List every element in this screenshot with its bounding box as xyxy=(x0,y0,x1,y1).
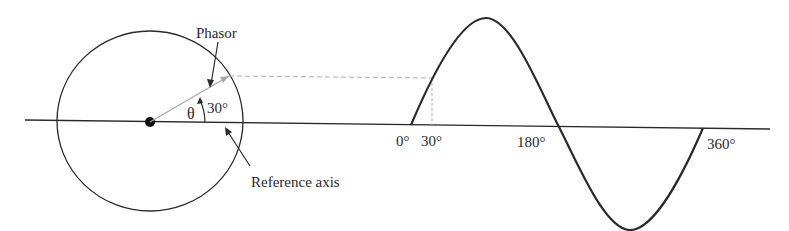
angle-arc-arrowhead xyxy=(197,97,203,104)
theta-label: θ xyxy=(187,105,195,122)
tick-label-360: 360° xyxy=(707,136,736,152)
reference-axis-label: Reference axis xyxy=(251,174,340,190)
tick-label-0: 0° xyxy=(396,133,410,149)
phasor-label: Phasor xyxy=(196,25,237,41)
phasor-arrowhead xyxy=(220,76,229,83)
phasor-diagram: Phasor θ 30° Reference axis 0° 30° 180° … xyxy=(0,0,789,231)
phasor-pointer-line xyxy=(211,42,218,84)
reference-pointer-line xyxy=(228,132,250,166)
phasor-pointer-arrowhead xyxy=(207,79,214,88)
diagram-svg: Phasor θ 30° Reference axis 0° 30° 180° … xyxy=(0,0,789,231)
reference-pointer-arrowhead xyxy=(225,127,232,136)
sine-wave xyxy=(411,18,703,230)
tick-label-180: 180° xyxy=(517,134,546,150)
angle-label: 30° xyxy=(207,100,228,116)
tick-label-30: 30° xyxy=(421,133,442,149)
horizontal-axis xyxy=(25,120,770,129)
projection-dashed-line xyxy=(229,76,432,78)
